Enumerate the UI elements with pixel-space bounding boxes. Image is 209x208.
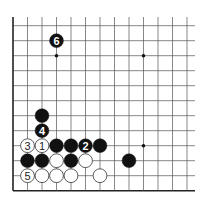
move-number-label: 5 [24, 170, 30, 182]
star-point-icon [142, 144, 146, 148]
black-stone [35, 154, 49, 168]
white-stone [93, 169, 107, 183]
white-stone [35, 169, 49, 183]
black-stone-move-2: 2 [79, 139, 93, 153]
black-stone [35, 109, 49, 123]
move-number-label: 6 [53, 35, 59, 47]
black-stone-move-6: 6 [50, 34, 64, 48]
white-stone-move-5: 5 [21, 169, 35, 183]
black-stone [122, 154, 136, 168]
black-stone [93, 139, 107, 153]
star-point-icon [55, 54, 59, 58]
stones: 643125 [21, 34, 136, 183]
star-point-icon [142, 54, 146, 58]
go-board: 643125 [0, 0, 209, 208]
black-stone-move-4: 4 [35, 124, 49, 138]
move-number-label: 1 [39, 140, 45, 152]
black-stone [64, 154, 78, 168]
move-number-label: 3 [24, 140, 30, 152]
move-number-label: 2 [82, 140, 88, 152]
white-stone-move-3: 3 [21, 139, 35, 153]
white-stone [50, 169, 64, 183]
black-stone [21, 154, 35, 168]
white-stone [64, 169, 78, 183]
black-stone [64, 139, 78, 153]
white-stone-move-1: 1 [35, 139, 49, 153]
black-stone [50, 139, 64, 153]
move-number-label: 4 [39, 125, 46, 137]
white-stone [79, 154, 93, 168]
white-stone [50, 154, 64, 168]
